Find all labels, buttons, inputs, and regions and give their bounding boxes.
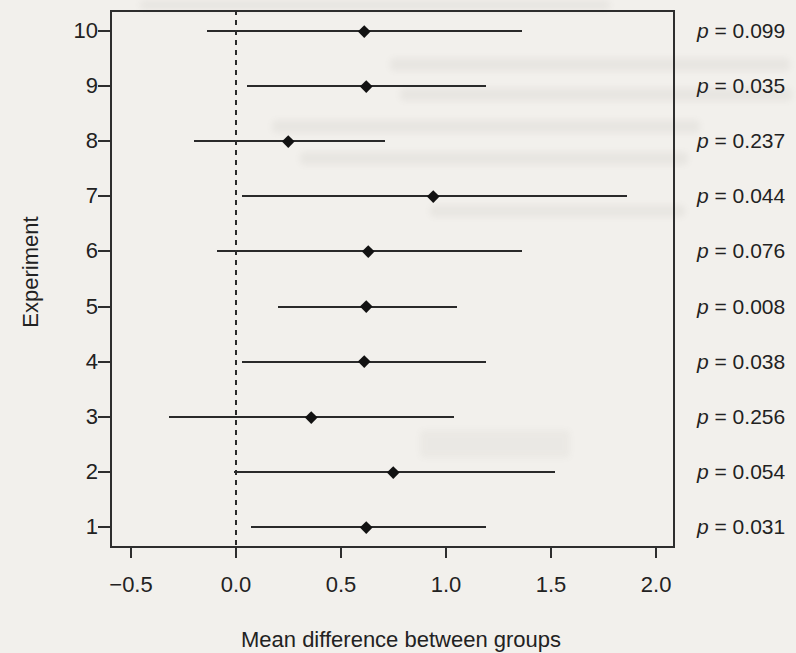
bleedthrough-streak — [140, 0, 610, 10]
p-symbol: p — [697, 405, 709, 428]
y-tick-label: 6 — [56, 237, 98, 265]
y-axis-tick — [98, 195, 110, 197]
p-value-text: = 0.038 — [709, 350, 785, 373]
y-tick-label: 9 — [56, 72, 98, 100]
p-value-text: = 0.054 — [709, 460, 785, 483]
y-tick-label: 1 — [56, 513, 98, 541]
y-tick-label: 8 — [56, 127, 98, 155]
p-value-text: = 0.008 — [709, 295, 785, 318]
p-value-text: = 0.031 — [709, 515, 785, 538]
x-axis-tick — [550, 548, 552, 558]
x-tick-label: 0.5 — [301, 572, 381, 598]
p-value-label: p = 0.256 — [697, 403, 796, 431]
p-symbol: p — [697, 239, 709, 262]
x-tick-label: 1.5 — [511, 572, 591, 598]
x-axis-tick — [445, 548, 447, 558]
p-value-text: = 0.237 — [709, 129, 785, 152]
y-tick-label: 3 — [56, 403, 98, 431]
y-axis-tick — [98, 85, 110, 87]
y-axis-tick — [98, 361, 110, 363]
y-tick-label: 10 — [56, 17, 98, 45]
p-value-text: = 0.256 — [709, 405, 785, 428]
p-symbol: p — [697, 184, 709, 207]
y-axis-tick — [98, 471, 110, 473]
y-axis-tick — [98, 250, 110, 252]
x-axis-tick — [130, 548, 132, 558]
x-axis-title: Mean difference between groups — [118, 626, 684, 653]
p-symbol: p — [697, 460, 709, 483]
p-value-label: p = 0.038 — [697, 348, 796, 376]
p-symbol: p — [697, 350, 709, 373]
x-tick-label: 2.0 — [616, 572, 696, 598]
p-value-label: p = 0.237 — [697, 127, 796, 155]
y-tick-label: 5 — [56, 293, 98, 321]
zero-reference-line — [235, 10, 237, 548]
p-value-label: p = 0.076 — [697, 237, 796, 265]
y-axis-tick — [98, 306, 110, 308]
x-tick-label: 0.0 — [196, 572, 276, 598]
y-axis-tick — [98, 416, 110, 418]
p-value-text: = 0.044 — [709, 184, 785, 207]
p-value-label: p = 0.008 — [697, 293, 796, 321]
p-value-text: = 0.035 — [709, 74, 785, 97]
p-value-label: p = 0.031 — [697, 513, 796, 541]
p-value-text: = 0.076 — [709, 239, 785, 262]
p-symbol: p — [697, 129, 709, 152]
p-value-label: p = 0.044 — [697, 182, 796, 210]
p-value-label: p = 0.054 — [697, 458, 796, 486]
x-tick-label: −0.5 — [91, 572, 171, 598]
y-axis-tick — [98, 30, 110, 32]
y-axis-title: Experiment — [18, 192, 44, 352]
p-symbol: p — [697, 295, 709, 318]
p-value-label: p = 0.099 — [697, 17, 796, 45]
p-symbol: p — [697, 74, 709, 97]
p-value-label: p = 0.035 — [697, 72, 796, 100]
y-axis-tick — [98, 526, 110, 528]
x-axis-tick — [235, 548, 237, 558]
y-tick-label: 2 — [56, 458, 98, 486]
p-symbol: p — [697, 19, 709, 42]
x-axis-tick — [340, 548, 342, 558]
x-tick-label: 1.0 — [406, 572, 486, 598]
y-tick-label: 7 — [56, 182, 98, 210]
p-symbol: p — [697, 515, 709, 538]
x-axis-tick — [655, 548, 657, 558]
forest-plot: Experiment Mean difference between group… — [0, 0, 796, 653]
y-tick-label: 4 — [56, 348, 98, 376]
y-axis-tick — [98, 140, 110, 142]
p-value-text: = 0.099 — [709, 19, 785, 42]
